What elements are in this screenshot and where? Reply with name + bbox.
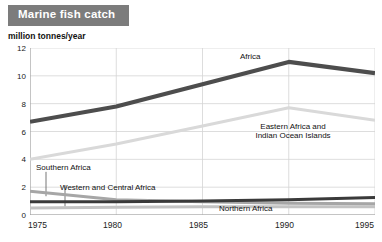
y-tick-8: 8	[6, 99, 26, 108]
y-axis-unit-label: million tonnes/year	[8, 31, 85, 41]
y-tick-0: 0	[6, 211, 26, 220]
annotation-eastern-africa: Eastern Africa and Indian Ocean Islands	[255, 122, 330, 140]
x-tick-1980: 1980	[103, 220, 122, 230]
x-tick-1985: 1985	[189, 220, 208, 230]
annotation-eastern-africa-line1: Eastern Africa and	[255, 122, 330, 131]
y-tick-4: 4	[6, 155, 26, 164]
y-tick-10: 10	[6, 71, 26, 80]
annotation-southern-africa: Southern Africa	[36, 163, 91, 172]
series-line-southern-africa	[30, 207, 375, 208]
chart-figure: Marine fish catch million tonnes/year 12…	[0, 0, 382, 242]
chart-title-banner: Marine fish catch	[8, 5, 129, 26]
y-tick-6: 6	[6, 127, 26, 136]
annotation-africa: Africa	[240, 52, 260, 61]
x-tick-1995: 1995	[355, 220, 374, 230]
y-tick-2: 2	[6, 183, 26, 192]
annotation-eastern-africa-line2: Indian Ocean Islands	[255, 131, 330, 140]
annotation-western-central-africa: Western and Central Africa	[60, 183, 155, 192]
y-tick-12: 12	[6, 44, 26, 53]
annotation-northern-africa: Northern Africa	[219, 204, 272, 213]
x-tick-1975: 1975	[28, 220, 47, 230]
x-tick-1990: 1990	[275, 220, 294, 230]
